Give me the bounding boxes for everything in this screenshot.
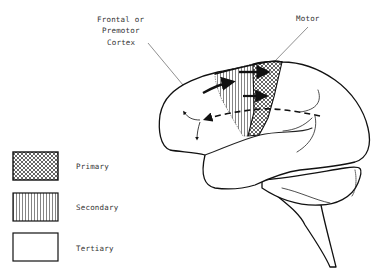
legend-item-tertiary: Tertiary <box>13 233 114 261</box>
legend: Primary Secondary Tertiary <box>13 152 119 261</box>
legend-swatch-tertiary <box>13 233 58 261</box>
motor-leader-line <box>274 27 308 62</box>
frontal-label-line1: Frontal or <box>97 15 144 24</box>
frontal-label-line2: Premotor <box>102 26 140 35</box>
legend-label-tertiary: Tertiary <box>76 244 114 253</box>
frontal-leader-line <box>148 43 183 85</box>
legend-item-primary: Primary <box>13 152 109 180</box>
legend-item-secondary: Secondary <box>13 193 119 221</box>
legend-swatch-secondary <box>13 193 58 221</box>
legend-label-primary: Primary <box>76 162 109 171</box>
frontal-label-line3: Cortex <box>107 38 136 47</box>
motor-label: Motor <box>296 14 320 23</box>
legend-label-secondary: Secondary <box>76 203 119 212</box>
brain-diagram: Frontal or Premotor Cortex Motor <box>0 0 377 274</box>
legend-swatch-primary <box>13 152 58 180</box>
